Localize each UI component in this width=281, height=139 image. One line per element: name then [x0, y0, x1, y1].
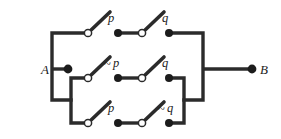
middle-switch-1-pivot: [84, 74, 91, 81]
left-inner-bus: [71, 78, 86, 123]
top-switch-1-label: p: [107, 11, 114, 25]
switching-circuit-diagram: p q ~ p q: [0, 0, 281, 139]
circuit-canvas: p q ~ p q: [0, 0, 281, 139]
terminal-a-label: A: [40, 62, 49, 77]
top-switch-2-pivot: [138, 29, 145, 36]
middle-switch-2-pivot: [138, 74, 145, 81]
terminal-b-node: [248, 65, 257, 74]
middle-switch-1-contact: [114, 74, 122, 82]
middle-switch-2-lever: [143, 57, 164, 77]
top-switch-2[interactable]: [138, 12, 164, 37]
middle-switch-1-label: p: [112, 56, 119, 70]
bottom-switch-2-pivot: [138, 119, 145, 126]
bottom-switch-2-negation: ~: [158, 102, 165, 116]
bottom-switch-1-contact: [114, 119, 122, 127]
top-switch-2-contact: [165, 29, 173, 37]
middle-switch-2[interactable]: [138, 57, 164, 82]
terminal-a-node: [64, 65, 73, 74]
top-switch-1-contact: [114, 29, 122, 37]
bottom-switch-1-label: p: [107, 101, 114, 115]
middle-switch-1-negation: ~: [104, 57, 111, 71]
wiring-group: [52, 33, 252, 123]
middle-switch-2-label: q: [162, 56, 168, 70]
top-switch-1[interactable]: [84, 12, 110, 37]
terminal-b-label: B: [260, 62, 268, 77]
branch-middle: ~ p q: [84, 56, 173, 82]
bottom-switch-2-label: q: [167, 101, 173, 115]
branch-top: p q: [84, 11, 173, 37]
middle-switch-2-contact: [165, 74, 173, 82]
top-switch-2-label: q: [162, 11, 168, 25]
bottom-switch-1-lever: [89, 102, 110, 122]
top-switch-1-lever: [89, 12, 110, 32]
branch-bottom: p ~ q: [84, 101, 173, 127]
bottom-switch-1-pivot: [84, 119, 91, 126]
top-switch-1-pivot: [84, 29, 91, 36]
top-switch-2-lever: [143, 12, 164, 32]
bottom-switch-2-contact: [165, 119, 173, 127]
bottom-switch-1[interactable]: [84, 102, 110, 127]
